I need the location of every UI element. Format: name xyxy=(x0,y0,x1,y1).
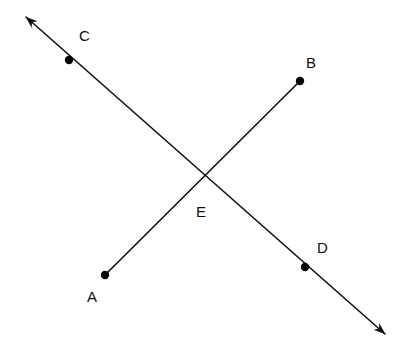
point-marker-a xyxy=(101,271,109,279)
point-marker-d xyxy=(301,263,309,271)
lines-group xyxy=(26,17,385,334)
point-label-b: B xyxy=(306,55,316,70)
point-label-a: A xyxy=(87,289,97,304)
point-label-e: E xyxy=(196,204,206,219)
points-group xyxy=(65,56,309,279)
point-marker-b xyxy=(296,77,304,85)
segment-ab xyxy=(105,81,300,275)
point-marker-c xyxy=(65,56,73,64)
geometry-canvas xyxy=(0,0,403,355)
point-label-d: D xyxy=(317,240,328,255)
point-label-c: C xyxy=(79,28,90,43)
geometry-figure: C B E D A xyxy=(0,0,403,355)
